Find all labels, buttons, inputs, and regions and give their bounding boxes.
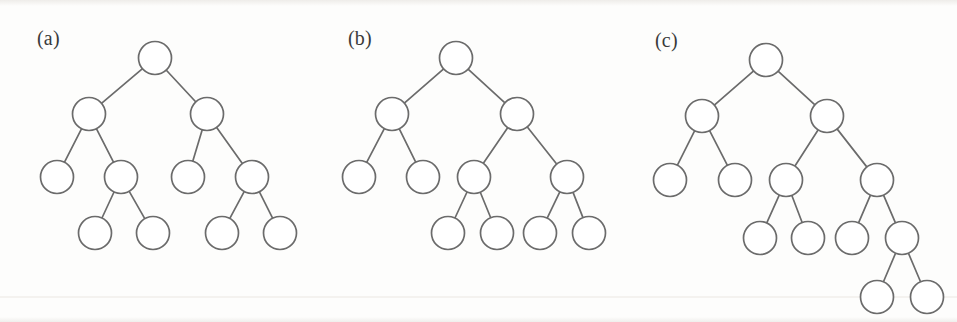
tree-edge [883, 195, 895, 224]
tree-edge [778, 71, 815, 105]
tree-node[interactable] [861, 281, 894, 314]
tree-edge [795, 129, 819, 166]
tree-node[interactable] [686, 100, 719, 133]
tree-edge [767, 195, 780, 224]
tree-diagram-c [0, 0, 957, 322]
tree-node[interactable] [770, 164, 803, 197]
tree-edge [908, 253, 921, 283]
tree-edge [714, 71, 754, 106]
tree-node[interactable] [744, 222, 777, 255]
tree-node[interactable] [654, 164, 687, 197]
tree-node[interactable] [811, 100, 844, 133]
tree-edge [883, 253, 896, 283]
tree-node[interactable] [750, 44, 783, 77]
figure-canvas: (a) (b) (c) [0, 0, 957, 322]
tree-node[interactable] [861, 164, 894, 197]
tree-node[interactable] [911, 281, 944, 314]
tree-node[interactable] [719, 164, 752, 197]
tree-node[interactable] [886, 222, 919, 255]
tree-edge [709, 130, 727, 166]
tree-edge [792, 195, 803, 223]
tree-edge [858, 195, 870, 224]
tree-edge [837, 129, 867, 168]
tree-node[interactable] [836, 222, 869, 255]
tree-node[interactable] [792, 222, 825, 255]
tree-edge [677, 130, 695, 165]
